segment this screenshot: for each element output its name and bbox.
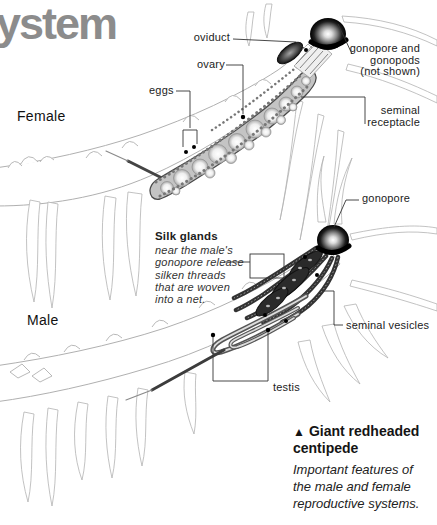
silk-glands-note: near the male's gonopore release silken … <box>155 244 244 305</box>
oviduct-label: oviduct <box>186 32 230 44</box>
caption-title-line2: centipede <box>293 440 425 456</box>
seminal-receptacle-leader <box>301 97 365 124</box>
caption-note-line2: the male and female <box>293 478 425 495</box>
silk-note-line4: that are woven <box>155 281 244 293</box>
eggs-label: eggs <box>149 85 174 97</box>
silk-note-line5: into a net. <box>155 293 244 305</box>
seminal-receptacle-label: seminal receptacle <box>367 105 420 128</box>
page-heading-cropped: ystem <box>0 0 116 50</box>
female-gonopore-cap <box>310 18 346 50</box>
seminal-receptacle-line2: receptacle <box>367 117 420 129</box>
gonopore-not-shown-note: (not shown) <box>350 66 420 78</box>
centipede-reproductive-system-diagram: ystem Female Male oviduct ovary eggs gon… <box>0 0 437 525</box>
figure-caption: ▲Giant redheaded centipede Important fea… <box>293 423 425 512</box>
caption-title-text1: Giant redheaded <box>309 423 419 439</box>
gonopore-gonopods-label: gonopore and gonopods (not shown) <box>350 43 420 78</box>
seminal-vesicles-leader <box>322 291 343 325</box>
triangle-marker-icon: ▲ <box>293 425 305 439</box>
silk-note-line3: silken threads <box>155 269 244 281</box>
silk-glands-title: Silk glands <box>155 231 218 243</box>
silk-note-line2: gonopore release <box>155 256 244 268</box>
male-gonopore-label: gonopore <box>362 193 410 205</box>
male-gonopore-cap <box>317 225 349 255</box>
caption-note-line3: reproductive systems. <box>293 495 425 512</box>
caption-note-line1: Important features of <box>293 461 425 478</box>
testis-label: testis <box>273 382 300 394</box>
caption-title-line1: ▲Giant redheaded <box>293 423 425 440</box>
seminal-receptacle-line1: seminal <box>367 105 420 117</box>
ovary-label: ovary <box>197 59 225 71</box>
seminal-vesicles-label: seminal vesicles <box>346 320 429 332</box>
gonopore-gonopods-line1: gonopore and <box>350 43 420 55</box>
silk-note-line1: near the male's <box>155 244 244 256</box>
caption-note: Important features of the male and femal… <box>293 461 425 512</box>
female-section-label: Female <box>17 108 65 124</box>
male-section-label: Male <box>27 312 59 328</box>
